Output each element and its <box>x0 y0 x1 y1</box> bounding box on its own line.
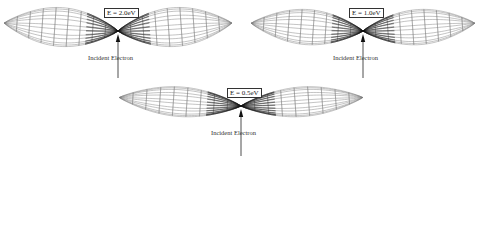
incident-electron-label: Incident Electron <box>211 129 256 136</box>
arrow-head-icon <box>239 109 243 117</box>
left-lobe <box>119 87 241 117</box>
energy-label: E = 0.5eV <box>227 88 262 98</box>
